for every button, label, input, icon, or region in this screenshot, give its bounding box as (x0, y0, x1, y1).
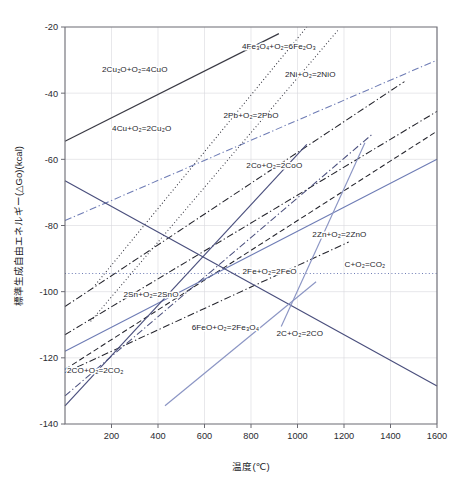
series-label-4cu-o2-2cu2o: 4Cu+O₂=2Cu₂O (112, 124, 171, 133)
ellingham-diagram: 2004006008001000120014001600-20-40-60-80… (0, 0, 464, 483)
y-tick-label: -140 (40, 419, 58, 429)
y-tick-label: -20 (45, 22, 58, 32)
x-tick-label: 400 (150, 431, 165, 441)
series-label-2pb-o2-2pbo: 2Pb+O₂=2PbO (223, 111, 278, 120)
x-axis-title: 温度(℃) (232, 461, 269, 472)
y-tick-label: -40 (45, 89, 58, 99)
tick-layer: 2004006008001000120014001600-20-40-60-80… (40, 22, 448, 441)
y-axis-title: 標準生成自由エネルギー(△Go)(kcal) (13, 146, 24, 306)
series-label-2ni-o2-2nio: 2Ni+O₂=2NiO (285, 70, 336, 79)
y-tick-label: -80 (45, 221, 58, 231)
x-tick-label: 1600 (427, 431, 447, 441)
series-label-2zn-o2-2zno: 2Zn+O₂=2ZnO (312, 230, 366, 239)
series-label-2c-o2-2co: 2C+O₂=2CO (276, 329, 323, 338)
x-tick-label: 600 (197, 431, 212, 441)
x-tick-label: 800 (243, 431, 258, 441)
y-tick-label: -100 (40, 287, 58, 297)
grid-layer (65, 27, 437, 424)
x-tick-label: 1200 (334, 431, 354, 441)
ellingham-chart-svg: 2004006008001000120014001600-20-40-60-80… (0, 0, 464, 483)
y-tick-label: -120 (40, 353, 58, 363)
y-tick-label: -60 (45, 155, 58, 165)
x-tick-label: 1400 (380, 431, 400, 441)
series-label-6feo-o2-2fe3o4: 6FeO+O₂=2Fe₃O₄ (192, 323, 259, 332)
series-label-c-o2-co2: C+O₂=CO₂ (344, 260, 385, 269)
x-tick-label: 200 (104, 431, 119, 441)
series-label-2fe-o2-2feo: 2Fe+O₂=2FeO (243, 267, 297, 276)
series-label-2cu2o-o2-4cuo: 2Cu₂O+O₂=4CuO (102, 65, 168, 74)
series-label-2co-o2-2coo: 2Co+O₂=2CoO (246, 161, 302, 170)
series-label-2co-o2-2co2: 2CO+O₂=2CO₂ (67, 366, 123, 375)
series-line-2zn-o2-2zno (65, 242, 349, 373)
series-label-2sn-o2-2sno: 2Sn+O₂=2SnO (123, 290, 178, 299)
series-label-4fe3o4-o2-6fe2o3: 4Fe₃O₄+O₂=6Fe₂O₃ (242, 42, 316, 51)
x-tick-label: 1000 (287, 431, 307, 441)
